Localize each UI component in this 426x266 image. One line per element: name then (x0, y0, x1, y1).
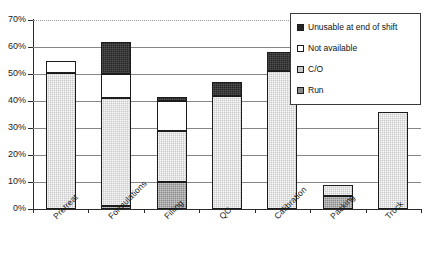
legend-label: Not available (308, 44, 357, 53)
x-axis-tick-mark (421, 209, 422, 213)
bar-group[interactable] (101, 20, 131, 209)
y-axis-tick-label: 20% (0, 150, 26, 159)
y-axis-tick-label: 60% (0, 42, 26, 51)
bar-segment[interactable] (101, 74, 131, 98)
x-axis-tick-mark (366, 209, 367, 213)
legend-label: Run (308, 86, 324, 95)
bar-segment[interactable] (46, 61, 76, 73)
y-axis-tick-label: 40% (0, 96, 26, 105)
x-axis-tick-mark (255, 209, 256, 213)
bar-group[interactable] (212, 20, 242, 209)
stacked-bar-chart: 0%10%20%30%40%50%60%70% PretreatFormulat… (0, 0, 426, 266)
legend-label: Unusable at end of shift (308, 23, 397, 32)
legend-swatch-icon (297, 66, 304, 73)
x-axis-tick-mark (199, 209, 200, 213)
y-axis-tick-label: 70% (0, 15, 26, 24)
legend-item[interactable]: C/O (297, 64, 323, 75)
x-axis-tick-mark (310, 209, 311, 213)
bar-group[interactable] (46, 20, 76, 209)
bar-segment[interactable] (212, 96, 242, 209)
bar-segment[interactable] (157, 131, 187, 182)
chart-legend: Unusable at end of shiftNot availableC/O… (290, 13, 421, 105)
bar-group[interactable] (157, 20, 187, 209)
bar-segment[interactable] (212, 82, 242, 96)
bar-segment[interactable] (157, 97, 187, 101)
legend-item[interactable]: Unusable at end of shift (297, 22, 397, 33)
legend-item[interactable]: Run (297, 85, 324, 96)
bar-segment[interactable] (46, 73, 76, 209)
x-axis-tick-mark (144, 209, 145, 213)
legend-item[interactable]: Not available (297, 43, 357, 54)
bar-segment[interactable] (101, 42, 131, 74)
y-axis-tick-label: 0% (0, 204, 26, 213)
legend-swatch-icon (297, 45, 304, 52)
bar-segment[interactable] (157, 101, 187, 131)
y-axis-tick-label: 50% (0, 69, 26, 78)
legend-swatch-icon (297, 24, 304, 31)
bar-segment[interactable] (101, 98, 131, 206)
x-axis-tick-mark (88, 209, 89, 213)
x-axis-tick-mark (33, 209, 34, 213)
bar-segment[interactable] (378, 112, 408, 209)
legend-label: C/O (308, 65, 323, 74)
y-axis-tick-label: 10% (0, 177, 26, 186)
y-axis-tick-label: 30% (0, 123, 26, 132)
legend-swatch-icon (297, 87, 304, 94)
